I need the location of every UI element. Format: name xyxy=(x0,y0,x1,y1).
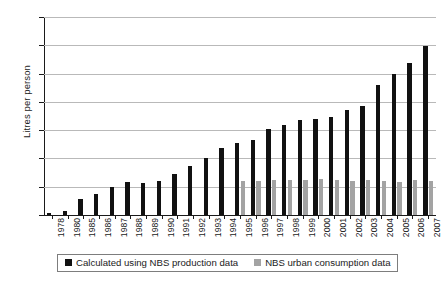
bar-production xyxy=(235,143,239,215)
x-axis-tick-label: 2003 xyxy=(369,218,379,254)
x-axis-tick-label: 1988 xyxy=(134,218,144,254)
bar-production xyxy=(298,120,302,215)
legend-item-production: Calculated using NBS production data xyxy=(65,257,238,268)
bar-group xyxy=(311,17,327,215)
y-axis-tick-mark xyxy=(39,158,44,159)
x-axis-tick-mark xyxy=(209,216,210,219)
bar-group xyxy=(122,17,138,215)
bar-production xyxy=(266,129,270,215)
x-axis-ticks: 1978198019851986198719881989199019911992… xyxy=(44,216,436,254)
plot-area xyxy=(44,17,436,215)
x-axis-tick-mark xyxy=(350,216,351,219)
legend-label: NBS urban consumption data xyxy=(265,257,390,268)
bar-production xyxy=(423,46,427,215)
bar-urban-consumption xyxy=(382,181,386,215)
bar-production xyxy=(376,85,380,215)
bar-group xyxy=(326,17,342,215)
bar-group xyxy=(342,17,358,215)
x-axis-tick-label: 1978 xyxy=(56,218,66,254)
bar-group xyxy=(405,17,421,215)
bar-group xyxy=(169,17,185,215)
x-axis-tick-mark xyxy=(146,216,147,219)
bar-production xyxy=(360,106,364,215)
bar-group xyxy=(91,17,107,215)
x-axis-tick-label: 2006 xyxy=(416,218,426,254)
x-axis-tick-label: 1991 xyxy=(181,218,191,254)
x-axis-tick-mark xyxy=(224,216,225,219)
bar-urban-consumption xyxy=(350,181,354,215)
bar-group xyxy=(138,17,154,215)
bar-urban-consumption xyxy=(241,181,245,215)
legend-item-urban: NBS urban consumption data xyxy=(254,257,390,268)
x-axis-tick-mark xyxy=(99,216,100,219)
x-axis-tick-mark xyxy=(130,216,131,219)
bar-group xyxy=(201,17,217,215)
bar-group xyxy=(60,17,76,215)
x-axis-tick-label: 2000 xyxy=(322,218,332,254)
bar-production xyxy=(172,174,176,215)
x-axis-tick-label: 1998 xyxy=(291,218,301,254)
bar-urban-consumption xyxy=(397,182,401,215)
y-axis-tick-mark xyxy=(39,74,44,75)
bar-production xyxy=(392,74,396,215)
bar-urban-consumption xyxy=(319,179,323,215)
x-axis-tick-mark xyxy=(381,216,382,219)
bar-production xyxy=(282,125,286,216)
bar-urban-consumption xyxy=(366,180,370,215)
x-axis-tick-mark xyxy=(52,216,53,219)
bar-production xyxy=(125,182,129,215)
bar-urban-consumption xyxy=(272,180,276,215)
x-axis-tick-label: 1996 xyxy=(260,218,270,254)
bar-production xyxy=(204,158,208,215)
x-axis-tick-label: 1997 xyxy=(275,218,285,254)
bar-group xyxy=(216,17,232,215)
x-axis-tick-mark xyxy=(177,216,178,219)
bar-production xyxy=(251,140,255,215)
x-axis-tick-mark xyxy=(240,216,241,219)
bar-production xyxy=(329,117,333,215)
x-axis-tick-label: 2002 xyxy=(354,218,364,254)
x-axis-tick-label: 1995 xyxy=(244,218,254,254)
y-axis-tick-mark xyxy=(39,130,44,131)
x-axis-tick-mark xyxy=(303,216,304,219)
bar-group xyxy=(373,17,389,215)
x-axis-tick-mark xyxy=(428,216,429,219)
bar-group xyxy=(279,17,295,215)
legend-swatch-icon xyxy=(65,259,72,266)
bar-urban-consumption xyxy=(335,180,339,215)
x-axis-tick-label: 2001 xyxy=(338,218,348,254)
bar-series-group xyxy=(44,17,436,215)
bar-chart: Litres per person 05101520253035 1978198… xyxy=(0,0,446,281)
bar-production xyxy=(78,199,82,215)
x-axis-tick-mark xyxy=(68,216,69,219)
y-axis-tick-mark xyxy=(39,102,44,103)
bar-production xyxy=(157,181,161,215)
bar-production xyxy=(313,119,317,215)
x-axis-tick-label: 1992 xyxy=(197,218,207,254)
bar-group xyxy=(107,17,123,215)
y-axis-title: Litres per person xyxy=(21,32,32,172)
bar-group xyxy=(248,17,264,215)
bar-urban-consumption xyxy=(413,180,417,215)
bar-urban-consumption xyxy=(429,181,433,216)
x-axis-tick-mark xyxy=(287,216,288,219)
x-axis-tick-mark xyxy=(193,216,194,219)
bar-group xyxy=(420,17,436,215)
bar-group xyxy=(185,17,201,215)
x-axis-tick-label: 1994 xyxy=(228,218,238,254)
x-axis-tick-mark xyxy=(412,216,413,219)
y-axis-tick-mark xyxy=(39,187,44,188)
x-axis-tick-mark xyxy=(397,216,398,219)
bar-group xyxy=(295,17,311,215)
x-axis-tick-label: 1993 xyxy=(213,218,223,254)
x-axis-tick-label: 2007 xyxy=(432,218,442,254)
bar-production xyxy=(219,148,223,215)
legend-swatch-icon xyxy=(254,259,261,266)
x-axis-tick-mark xyxy=(271,216,272,219)
bar-production xyxy=(188,166,192,215)
bar-production xyxy=(407,63,411,215)
bar-group xyxy=(75,17,91,215)
y-axis-tick-mark xyxy=(39,17,44,18)
bar-group xyxy=(154,17,170,215)
x-axis-tick-mark xyxy=(256,216,257,219)
